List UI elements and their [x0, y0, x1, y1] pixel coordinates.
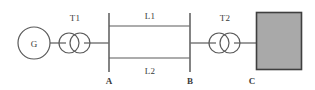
bus-a-label: A [106, 76, 113, 86]
generator-symbol[interactable]: G [18, 27, 50, 59]
transformer-t1-label: T1 [70, 13, 80, 23]
bus-b-label: B [187, 76, 193, 86]
generator-label: G [31, 39, 38, 49]
transformer-t2-label: T2 [220, 13, 230, 23]
diagram-canvas: G T1 A L1 L2 B T2 [0, 0, 315, 90]
transmission-line-l2-label: L2 [145, 66, 155, 76]
load-c-label: C [249, 76, 256, 86]
load-c-block [257, 13, 302, 70]
transmission-line-l1-label: L1 [145, 11, 155, 21]
single-line-diagram: G T1 A L1 L2 B T2 [0, 0, 315, 90]
load-c-symbol[interactable] [257, 13, 302, 70]
